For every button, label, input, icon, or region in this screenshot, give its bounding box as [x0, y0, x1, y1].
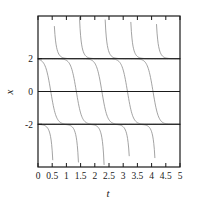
x-tick-label: 1.5 [75, 171, 87, 181]
y-tick-label: 2 [28, 54, 33, 64]
x-tick-label: 0.5 [46, 171, 58, 181]
x-tick-label: 4.5 [160, 171, 172, 181]
x-tick-label: 3.5 [131, 171, 143, 181]
x-tick-label: 2 [92, 171, 97, 181]
x-tick-label: 3 [121, 171, 126, 181]
x-tick-label: 5 [178, 171, 183, 181]
chart-svg: 00.511.522.533.544.55 20-2 t x [0, 0, 199, 203]
y-tick-label: -2 [25, 120, 33, 130]
x-tick-label: 1 [64, 171, 69, 181]
x-tick-labels: 00.511.522.533.544.55 [36, 171, 183, 181]
solution-curves-chart: 00.511.522.533.544.55 20-2 t x [0, 0, 199, 203]
x-tick-label: 0 [36, 171, 41, 181]
y-axis-label: x [3, 89, 15, 95]
x-tick-label: 2.5 [103, 171, 115, 181]
y-tick-label: 0 [28, 87, 33, 97]
x-tick-label: 4 [149, 171, 154, 181]
